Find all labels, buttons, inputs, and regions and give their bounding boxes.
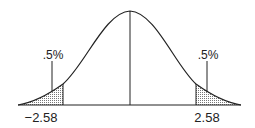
left-tail-shading [18, 84, 63, 105]
left-tail-label: .5% [43, 49, 64, 61]
normal-curve-diagram [0, 0, 255, 128]
right-critical-value: 2.58 [194, 112, 219, 124]
left-critical-value: −2.58 [25, 112, 58, 124]
right-tail-shading [196, 84, 241, 105]
right-tail-label: .5% [198, 49, 219, 61]
